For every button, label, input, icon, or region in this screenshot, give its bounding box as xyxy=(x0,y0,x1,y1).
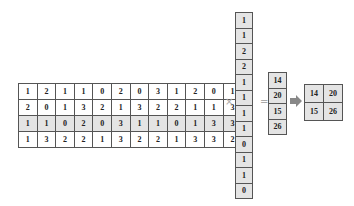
vector-cell: 2 xyxy=(235,43,253,60)
matrix-cell: 3 xyxy=(37,131,57,148)
matrix-cell: 1 xyxy=(185,115,205,132)
vector-cell: 0 xyxy=(235,183,253,200)
matrix-cell: 1 xyxy=(18,115,38,132)
result-matrix-cell: 14 xyxy=(304,84,324,103)
matrix-cell: 2 xyxy=(130,131,150,148)
result-vector-cell: 14 xyxy=(268,72,287,89)
multiply-operator: × xyxy=(225,96,233,107)
matrix-cell: 2 xyxy=(92,99,112,116)
matrix-cell: 3 xyxy=(130,99,150,116)
matrix-cell: 3 xyxy=(74,99,94,116)
result-matrix-cell: 26 xyxy=(323,102,343,121)
vector-cell: 1 xyxy=(235,28,253,45)
right-arrow-icon xyxy=(289,94,303,108)
vector-cell: 0 xyxy=(235,136,253,153)
vector-cell: 1 xyxy=(235,12,253,29)
matrix-cell: 0 xyxy=(92,115,112,132)
matrix-cell: 1 xyxy=(55,83,75,100)
matrix-cell: 3 xyxy=(111,115,131,132)
matrix-cell: 1 xyxy=(37,115,57,132)
result-matrix-cell: 15 xyxy=(304,102,324,121)
matrix-cell: 0 xyxy=(204,83,224,100)
matrix-cell: 0 xyxy=(167,115,187,132)
matrix-cell: 1 xyxy=(111,99,131,116)
matrix-cell: 0 xyxy=(92,83,112,100)
matrix-cell: 2 xyxy=(18,99,38,116)
matrix-cell: 3 xyxy=(204,131,224,148)
matrix-cell: 1 xyxy=(74,83,94,100)
matrix-cell: 2 xyxy=(74,131,94,148)
matrix-cell: 1 xyxy=(18,83,38,100)
matrix-cell: 1 xyxy=(92,131,112,148)
matrix-cell: 2 xyxy=(74,115,94,132)
result-matrix-cell: 20 xyxy=(323,84,343,103)
matrix-cell: 1 xyxy=(55,99,75,116)
matrix-cell: 2 xyxy=(148,131,168,148)
matrix-cell: 2 xyxy=(111,83,131,100)
matrix-cell: 0 xyxy=(37,99,57,116)
matrix-cell: 2 xyxy=(37,83,57,100)
matrix-cell: 1 xyxy=(167,131,187,148)
vector-cell: 1 xyxy=(235,121,253,138)
vector-cell: 1 xyxy=(235,105,253,122)
matrix-cell: 3 xyxy=(204,115,224,132)
matrix-cell: 0 xyxy=(130,83,150,100)
vector-cell: 1 xyxy=(235,167,253,184)
matrix-cell: 3 xyxy=(148,83,168,100)
result-vector-cell: 15 xyxy=(268,103,287,120)
matrix-cell: 3 xyxy=(185,131,205,148)
matrix-cell: 1 xyxy=(18,131,38,148)
vector-cell: 2 xyxy=(235,59,253,76)
vector-cell: 1 xyxy=(235,90,253,107)
vector-cell: 1 xyxy=(235,152,253,169)
matrix-cell: 2 xyxy=(167,99,187,116)
matrix-cell: 1 xyxy=(130,115,150,132)
matrix-cell: 1 xyxy=(167,83,187,100)
matrix-cell: 0 xyxy=(55,115,75,132)
result-vector-cell: 20 xyxy=(268,88,287,105)
result-vector-cell: 26 xyxy=(268,119,287,136)
vector-cell: 1 xyxy=(235,74,253,91)
matrix-cell: 3 xyxy=(111,131,131,148)
matrix-cell: 1 xyxy=(185,99,205,116)
matrix-cell: 2 xyxy=(55,131,75,148)
matrix-cell: 1 xyxy=(204,99,224,116)
matrix-cell: 2 xyxy=(185,83,205,100)
matrix-cell: 2 xyxy=(148,99,168,116)
matrix-cell: 1 xyxy=(148,115,168,132)
